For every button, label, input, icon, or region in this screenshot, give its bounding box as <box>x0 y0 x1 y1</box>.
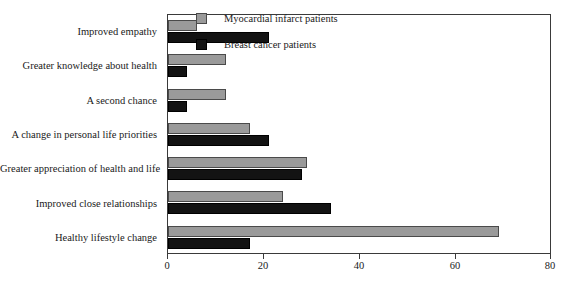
bar-breast-1 <box>168 66 187 77</box>
bar-myocardial-4 <box>168 157 307 168</box>
bar-myocardial-5 <box>168 191 283 202</box>
y-axis-label-1: Greater knowledge about health <box>0 60 162 71</box>
bar-group-2 <box>168 84 550 118</box>
legend-swatch-gray-icon <box>196 13 207 24</box>
x-tick-mark-0 <box>167 254 168 259</box>
x-tick-mark-1 <box>263 254 264 259</box>
legend-item-breast: Breast cancer patients <box>196 38 376 51</box>
bar-group-3 <box>168 118 550 152</box>
x-tick-mark-3 <box>455 254 456 259</box>
x-tick-label-0: 0 <box>164 260 169 271</box>
x-axis: 0 20 40 60 80 <box>167 254 551 284</box>
bar-group-6 <box>168 221 550 255</box>
y-axis-label-2: A second chance <box>0 94 162 105</box>
x-tick-label-4: 80 <box>545 260 556 271</box>
legend-label-myocardial: Myocardial infarct patients <box>224 13 338 24</box>
bar-myocardial-0 <box>168 20 197 31</box>
bar-breast-6 <box>168 238 250 249</box>
bar-group-4 <box>168 152 550 186</box>
legend-swatch-black-icon <box>196 39 207 50</box>
bar-myocardial-3 <box>168 123 250 134</box>
x-tick-label-3: 60 <box>450 260 461 271</box>
y-axis-label-3: A change in personal life priorities <box>0 129 162 140</box>
bar-myocardial-2 <box>168 89 226 100</box>
bar-group-5 <box>168 186 550 220</box>
legend-item-myocardial: Myocardial infarct patients <box>196 12 376 25</box>
bar-breast-5 <box>168 203 331 214</box>
x-tick-mark-4 <box>550 254 551 259</box>
y-axis-label-0: Improved empathy <box>0 26 162 37</box>
bar-breast-3 <box>168 135 269 146</box>
x-tick-label-2: 40 <box>354 260 365 271</box>
x-tick-label-1: 20 <box>258 260 269 271</box>
y-axis-label-6: Healthy lifestyle change <box>0 231 162 242</box>
bar-breast-2 <box>168 101 187 112</box>
y-axis-label-5: Improved close relationships <box>0 197 162 208</box>
x-tick-mark-2 <box>359 254 360 259</box>
y-axis-label-4: Greater appreciation of health and life <box>0 163 162 174</box>
bar-chart: Improved empathy Greater knowledge about… <box>0 0 573 290</box>
legend-label-breast: Breast cancer patients <box>224 39 316 50</box>
bar-myocardial-6 <box>168 226 499 237</box>
chart-legend: Myocardial infarct patients Breast cance… <box>196 12 376 64</box>
bar-breast-4 <box>168 169 302 180</box>
y-axis-category-labels: Improved empathy Greater knowledge about… <box>0 14 162 254</box>
